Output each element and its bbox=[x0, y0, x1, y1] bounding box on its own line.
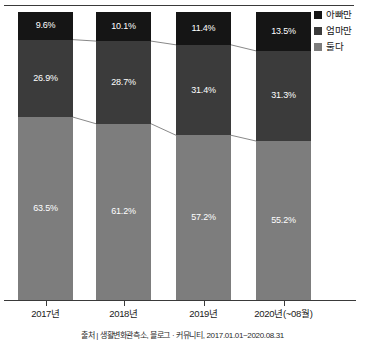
stacked-bar-chart: 9.6%26.9%63.5%10.1%28.7%61.2%11.4%31.4%5… bbox=[0, 0, 365, 344]
bar-column[interactable]: 9.6%26.9%63.5% bbox=[18, 12, 73, 300]
bar-segment[interactable]: 13.5% bbox=[256, 12, 311, 51]
legend-item-ommaman[interactable]: 엄마만 bbox=[314, 25, 365, 36]
legend-swatch-icon bbox=[314, 11, 322, 19]
legend-swatch-icon bbox=[314, 43, 322, 51]
bar-column[interactable]: 11.4%31.4%57.2% bbox=[176, 12, 231, 300]
segment-value-label: 61.2% bbox=[111, 207, 136, 216]
segment-value-label: 63.5% bbox=[33, 204, 58, 213]
bar-column[interactable]: 10.1%28.7%61.2% bbox=[96, 12, 151, 300]
plot-area: 9.6%26.9%63.5%10.1%28.7%61.2%11.4%31.4%5… bbox=[0, 0, 310, 310]
bar-segment[interactable]: 28.7% bbox=[96, 41, 151, 124]
bar-segment[interactable]: 55.2% bbox=[256, 141, 311, 300]
segment-value-label: 10.1% bbox=[111, 22, 136, 31]
bar-segment[interactable]: 31.3% bbox=[256, 51, 311, 141]
legend-item-appaman[interactable]: 아빠만 bbox=[314, 9, 365, 20]
segment-value-label: 31.3% bbox=[271, 91, 296, 100]
segment-value-label: 13.5% bbox=[271, 27, 296, 36]
bar-segment[interactable]: 26.9% bbox=[18, 40, 73, 117]
segment-value-label: 28.7% bbox=[111, 78, 136, 87]
bar-segment[interactable]: 61.2% bbox=[96, 124, 151, 300]
segment-value-label: 31.4% bbox=[191, 86, 216, 95]
segment-value-label: 9.6% bbox=[36, 21, 56, 30]
source-note: 출처 | 생활변화관측소, 블로그 · 커뮤니티, 2017.01.01~202… bbox=[0, 329, 365, 340]
bar-segment[interactable]: 11.4% bbox=[176, 12, 231, 45]
top-rule bbox=[4, 5, 354, 6]
segment-value-label: 55.2% bbox=[271, 216, 296, 225]
x-axis-line bbox=[4, 300, 356, 301]
bar-column[interactable]: 13.5%31.3%55.2% bbox=[256, 12, 311, 300]
segment-value-label: 11.4% bbox=[192, 24, 216, 33]
x-axis-labels: 2017년2018년2019년2020년(~08월) bbox=[0, 306, 320, 326]
chart-legend: 아빠만 엄마만 둘다 bbox=[314, 9, 365, 57]
x-axis-label: 2018년 bbox=[84, 306, 164, 320]
segment-value-label: 57.2% bbox=[191, 213, 216, 222]
legend-item-label: 엄마만 bbox=[326, 26, 352, 36]
bar-segment[interactable]: 9.6% bbox=[18, 12, 73, 40]
bar-segment[interactable]: 31.4% bbox=[176, 45, 231, 135]
x-axis-label: 2019년 bbox=[164, 306, 244, 320]
legend-swatch-icon bbox=[314, 27, 322, 35]
bar-segment[interactable]: 57.2% bbox=[176, 135, 231, 300]
bar-segment[interactable]: 10.1% bbox=[96, 12, 151, 41]
x-axis-label: 2020년(~08월) bbox=[244, 306, 324, 320]
legend-item-label: 둘다 bbox=[326, 42, 343, 52]
bar-segment[interactable]: 63.5% bbox=[18, 117, 73, 300]
x-axis-label: 2017년 bbox=[6, 306, 86, 320]
segment-value-label: 26.9% bbox=[33, 74, 58, 83]
legend-item-dulda[interactable]: 둘다 bbox=[314, 41, 365, 52]
legend-item-label: 아빠만 bbox=[326, 10, 352, 20]
